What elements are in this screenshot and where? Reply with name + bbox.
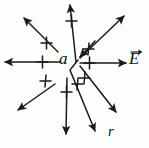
field-lines-group [5,5,126,134]
radius-label-a: a [59,50,68,67]
field-line-up [70,5,76,62]
distance-line-r [70,60,95,131]
tick-plus-down-left-v [45,75,46,87]
tick-plus-down-right-v [84,72,85,84]
tick-plus-r-v [77,78,78,90]
field-line-up-right [80,16,124,58]
field-line-up-left [24,18,58,52]
figure-root: a r E [0,0,149,148]
field-line-down-left [18,84,55,110]
tick-plus-up-right-v [88,43,89,55]
electric-field-diagram-canvas [0,0,149,148]
vector-overbar-arrow-icon [130,48,143,55]
distance-line-r-path [70,60,95,131]
distance-label-r: r [108,124,114,139]
